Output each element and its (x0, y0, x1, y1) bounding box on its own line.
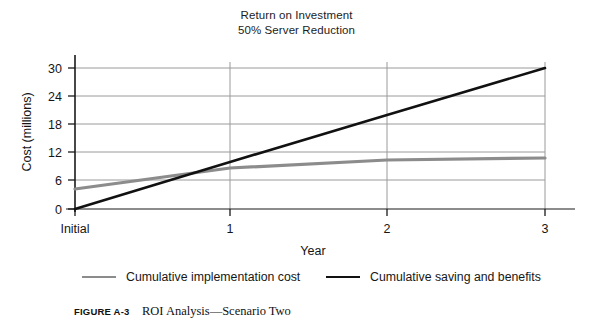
figure-caption-label: FIGURE A-3 (74, 306, 129, 317)
figure-caption: FIGURE A-3 ROI Analysis—Scenario Two (74, 301, 291, 319)
legend-label-saving-benefits: Cumulative saving and benefits (370, 270, 541, 284)
y-tick-label-18: 18 (48, 118, 62, 132)
y-tick-label-6: 6 (55, 174, 62, 188)
legend-item-implementation-cost: Cumulative implementation cost (82, 270, 300, 284)
x-tick-marks (75, 209, 545, 216)
legend-swatch-gray-line-icon (82, 276, 116, 278)
y-tick-label-30: 30 (48, 62, 62, 76)
y-tick-label-12: 12 (48, 146, 62, 160)
x-tick-label-initial: Initial (60, 222, 89, 236)
chart-legend: Cumulative implementation cost Cumulativ… (60, 270, 580, 292)
series-line-implementation-cost (75, 158, 545, 189)
y-tick-label-24: 24 (48, 90, 62, 104)
legend-swatch-black-line-icon (326, 276, 360, 278)
figure-caption-text: ROI Analysis—Scenario Two (142, 304, 291, 318)
x-tick-label-3: 3 (542, 222, 549, 236)
x-tick-label-2: 2 (384, 222, 391, 236)
y-axis-title: Cost (millions) (20, 92, 34, 171)
legend-label-implementation-cost: Cumulative implementation cost (126, 270, 300, 284)
series-line-saving-benefits (75, 68, 545, 209)
vertical-gridlines (230, 62, 545, 209)
legend-item-saving-benefits: Cumulative saving and benefits (326, 270, 541, 284)
y-tick-label-0: 0 (55, 203, 62, 217)
figure-roi-analysis: Return on Investment 50% Server Reductio… (0, 0, 593, 326)
x-axis-title: Year (300, 244, 325, 258)
x-tick-labels: Initial 1 2 3 (60, 222, 548, 236)
x-tick-label-1: 1 (227, 222, 234, 236)
y-tick-labels: 30 24 18 12 6 0 (48, 62, 62, 217)
